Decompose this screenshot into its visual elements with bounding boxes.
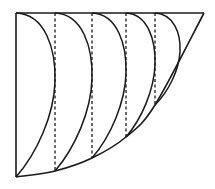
arc-4 [126,13,155,137]
outer-boundary-curve [16,13,204,177]
arc-2 [55,13,92,171]
dashed-vertical-lines [55,13,155,171]
outer-curve [16,13,204,177]
curved-region-diagram [0,0,215,189]
arc-1 [16,13,55,177]
frame-lines [16,13,204,177]
arc-5 [155,13,180,105]
arc-3 [92,13,126,158]
